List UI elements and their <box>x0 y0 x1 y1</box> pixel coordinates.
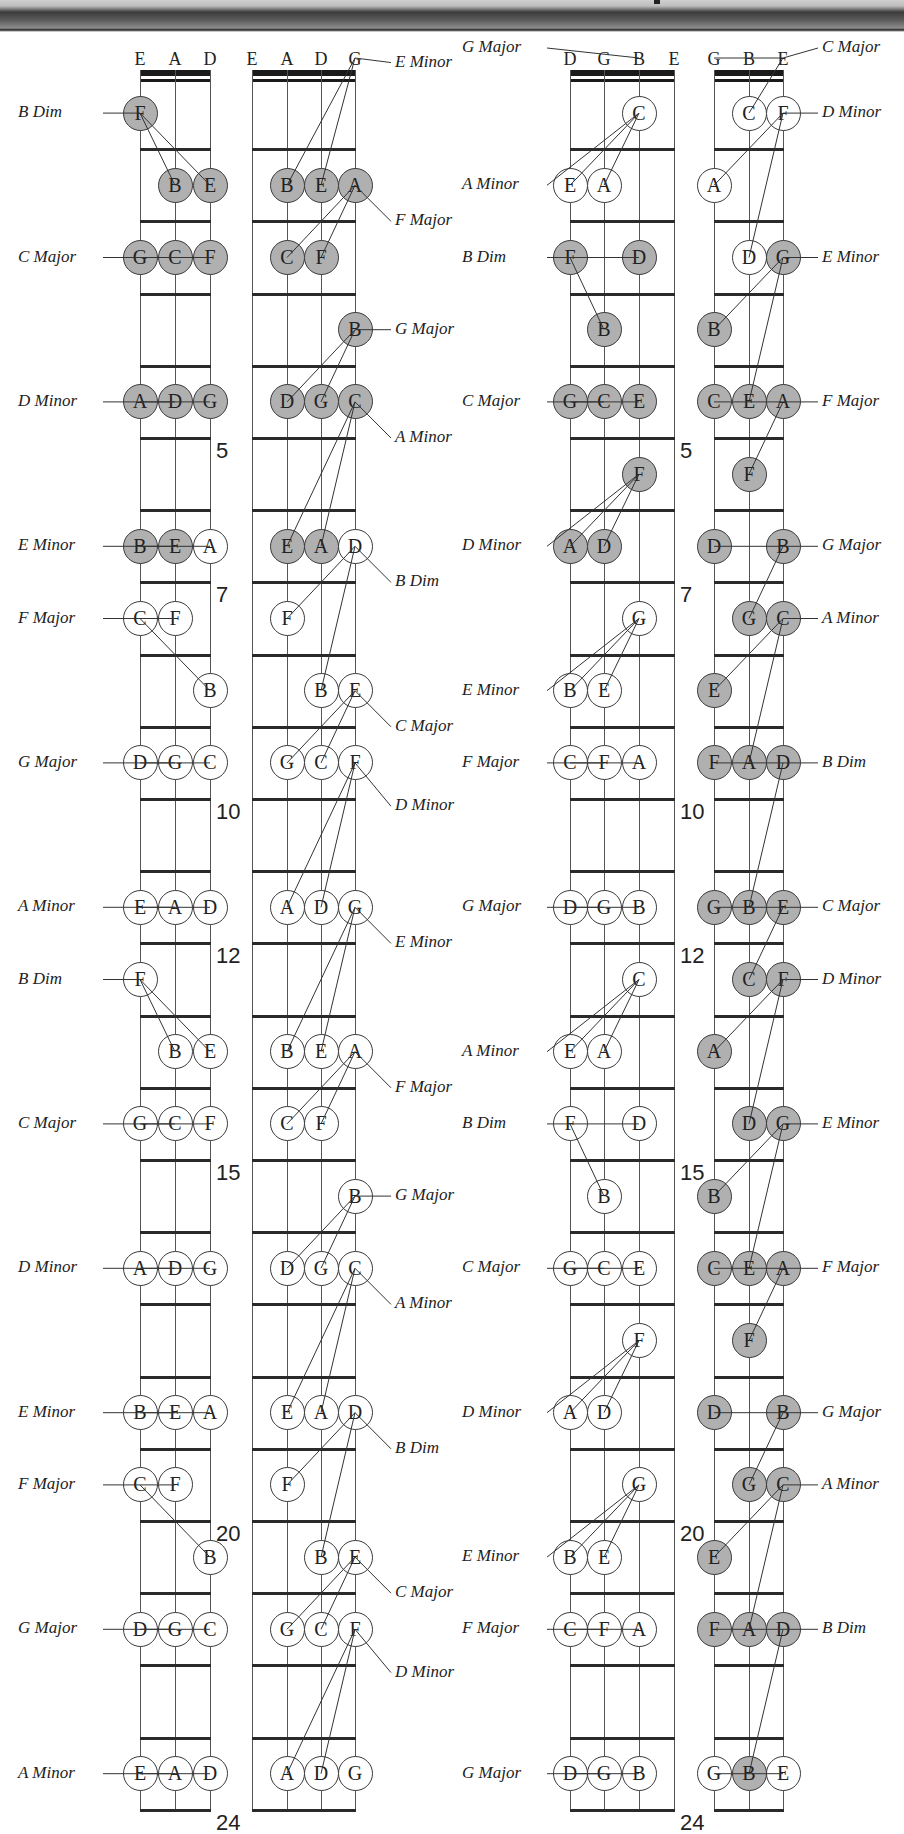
note-D: D <box>123 745 158 780</box>
fret-line <box>140 1809 211 1812</box>
note-F: F <box>304 1106 339 1141</box>
note-E: E <box>304 168 339 203</box>
fret-line <box>714 1664 784 1667</box>
note-E: E <box>123 890 158 925</box>
fret-line <box>570 1809 675 1812</box>
note-D: D <box>338 529 373 564</box>
note-C: C <box>622 96 657 131</box>
note-E: E <box>158 529 193 564</box>
note-D: D <box>587 1395 622 1430</box>
note-F: F <box>553 240 588 275</box>
note-G: G <box>158 1612 193 1647</box>
note-G: G <box>338 890 373 925</box>
fret-line <box>714 1448 784 1451</box>
note-E: E <box>732 384 767 419</box>
note-A: A <box>338 1034 373 1069</box>
chord-label: C Major <box>822 38 880 56</box>
note-B: B <box>766 1395 801 1430</box>
fret-line <box>714 870 784 873</box>
note-E: E <box>766 890 801 925</box>
chord-label: A Minor <box>822 609 879 627</box>
note-F: F <box>622 457 657 492</box>
open-string-label: B <box>743 50 755 68</box>
note-B: B <box>553 1540 588 1575</box>
note-B: B <box>304 673 339 708</box>
chord-label: E Minor <box>822 248 879 266</box>
chord-label: F Major <box>822 392 879 410</box>
note-C: C <box>697 1251 732 1286</box>
note-C: C <box>193 1612 228 1647</box>
note-E: E <box>697 673 732 708</box>
fret-number-marker: 7 <box>680 584 692 606</box>
note-D: D <box>622 1106 657 1141</box>
note-D: D <box>304 1756 339 1791</box>
fret-number-marker: 5 <box>680 440 692 462</box>
note-B: B <box>766 529 801 564</box>
note-G: G <box>270 745 305 780</box>
fret-line <box>714 798 784 801</box>
note-A: A <box>338 168 373 203</box>
note-B: B <box>193 673 228 708</box>
note-D: D <box>622 240 657 275</box>
note-C: C <box>587 384 622 419</box>
note-D: D <box>697 529 732 564</box>
note-A: A <box>622 745 657 780</box>
chord-label: D Minor <box>822 103 881 121</box>
note-D: D <box>270 384 305 419</box>
note-A: A <box>553 529 588 564</box>
note-C: C <box>304 1612 339 1647</box>
note-F: F <box>338 745 373 780</box>
fret-line <box>714 220 784 223</box>
note-C: C <box>697 384 732 419</box>
note-B: B <box>622 1756 657 1791</box>
fret-number-marker: 12 <box>680 945 704 967</box>
note-C: C <box>732 96 767 131</box>
note-E: E <box>697 1540 732 1575</box>
note-G: G <box>553 384 588 419</box>
fret-line <box>714 1737 784 1740</box>
chord-label: A Minor <box>822 1475 879 1493</box>
note-E: E <box>732 1251 767 1286</box>
note-A: A <box>304 529 339 564</box>
note-A: A <box>697 168 732 203</box>
note-A: A <box>587 1034 622 1069</box>
note-A: A <box>697 1034 732 1069</box>
note-A: A <box>158 890 193 925</box>
note-D: D <box>193 1756 228 1791</box>
fret-number-marker: 12 <box>216 945 240 967</box>
note-B: B <box>158 168 193 203</box>
note-D: D <box>270 1251 305 1286</box>
fret-line <box>714 654 784 657</box>
note-E: E <box>622 384 657 419</box>
note-C: C <box>622 962 657 997</box>
note-C: C <box>270 1106 305 1141</box>
note-E: E <box>270 1395 305 1430</box>
note-B: B <box>270 1034 305 1069</box>
note-C: C <box>732 962 767 997</box>
note-E: E <box>193 168 228 203</box>
note-B: B <box>697 312 732 347</box>
note-E: E <box>553 168 588 203</box>
fret-number-marker: 24 <box>680 1812 704 1834</box>
note-A: A <box>732 745 767 780</box>
note-E: E <box>766 1756 801 1791</box>
note-B: B <box>553 673 588 708</box>
note-C: C <box>270 240 305 275</box>
note-F: F <box>697 745 732 780</box>
fret-number-marker: 10 <box>680 801 704 823</box>
note-B: B <box>270 168 305 203</box>
note-C: C <box>766 601 801 636</box>
note-C: C <box>193 745 228 780</box>
fret-line <box>714 1015 784 1018</box>
chord-label: B Dim <box>822 753 866 771</box>
note-G: G <box>732 601 767 636</box>
note-D: D <box>766 745 801 780</box>
fret-number-marker: 15 <box>680 1162 704 1184</box>
note-D: D <box>697 1395 732 1430</box>
note-F: F <box>553 1106 588 1141</box>
chord-label: G Major <box>822 536 881 554</box>
note-D: D <box>587 529 622 564</box>
fret-line <box>714 581 784 584</box>
fret-number-marker: 10 <box>216 801 240 823</box>
note-D: D <box>338 1395 373 1430</box>
